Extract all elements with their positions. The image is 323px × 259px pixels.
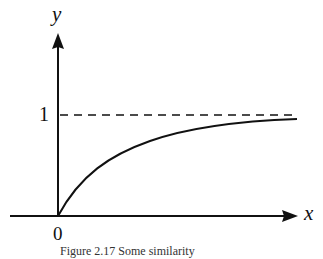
y-axis-label: y — [52, 2, 61, 27]
growth-curve — [58, 119, 297, 216]
figure-caption: Figure 2.17 Some similarity — [60, 244, 195, 259]
y-axis-arrow-icon — [52, 33, 64, 49]
origin-label: 0 — [53, 223, 63, 245]
y-tick-one: 1 — [39, 103, 49, 126]
x-axis-label: x — [304, 201, 313, 226]
x-axis-arrow-icon — [282, 210, 298, 222]
